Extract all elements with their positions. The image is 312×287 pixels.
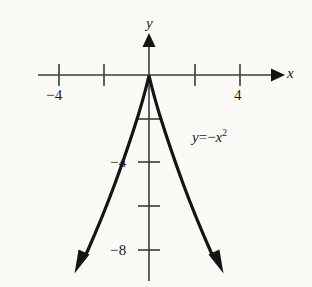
y-axis-label: y [146,16,153,31]
graph-canvas [0,0,312,287]
y-axis-tick-label-neg4: −4 [110,155,127,170]
equation-annotation: y=−x2 [192,130,227,145]
equation-sign: − [207,129,215,145]
parabola-figure: −4 4 −4 −8 y x y=−x2 [0,0,312,287]
equation-equals: = [199,129,207,145]
equation-exponent: 2 [222,128,227,138]
y-axis-tick-label-neg8: −8 [110,243,127,258]
x-axis-tick-label-4: 4 [234,88,242,103]
x-axis-label: x [287,66,294,81]
y-axis-arrowhead-icon [143,33,156,47]
equation-lhs: y [192,129,199,145]
x-axis-tick-label-neg4: −4 [46,88,63,103]
x-axis-arrowhead-icon [271,69,285,82]
